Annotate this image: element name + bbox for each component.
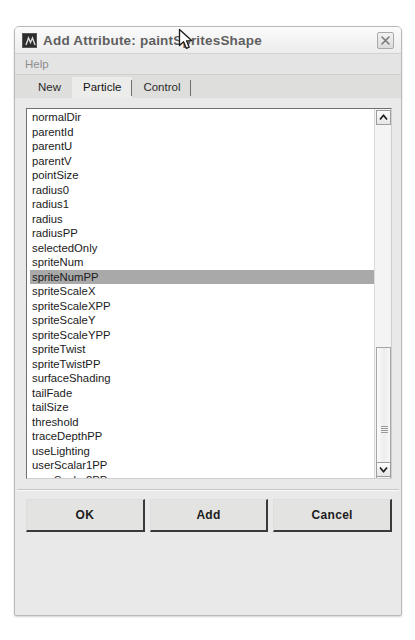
ok-button[interactable]: OK bbox=[26, 499, 145, 532]
list-item[interactable]: spriteScaleX bbox=[30, 284, 374, 299]
list-item[interactable]: userScalar2PP bbox=[30, 473, 374, 479]
screen: Add Attribute: paintSpritesShape Help Ne… bbox=[0, 0, 415, 640]
list-item[interactable]: parentU bbox=[30, 139, 374, 154]
add-attribute-dialog: Add Attribute: paintSpritesShape Help Ne… bbox=[14, 26, 402, 616]
list-item[interactable]: radius bbox=[30, 212, 374, 227]
scrollbar-grip bbox=[381, 426, 388, 434]
tab-control[interactable]: Control bbox=[132, 77, 191, 98]
list-item[interactable]: spriteScaleY bbox=[30, 313, 374, 328]
list-item[interactable]: selectedOnly bbox=[30, 241, 374, 256]
list-item[interactable]: tailSize bbox=[30, 400, 374, 415]
dialog-titlebar[interactable]: Add Attribute: paintSpritesShape bbox=[15, 27, 401, 54]
list-item[interactable]: spriteScaleYPP bbox=[30, 328, 374, 343]
tab-strip: New Particle Control bbox=[15, 75, 401, 98]
list-item[interactable]: tailFade bbox=[30, 386, 374, 401]
tab-particle[interactable]: Particle bbox=[72, 77, 132, 98]
list-item[interactable]: parentV bbox=[30, 154, 374, 169]
attribute-list[interactable]: normalDirparentIdparentUparentVpointSize… bbox=[27, 109, 374, 478]
tab-new[interactable]: New bbox=[27, 77, 72, 98]
list-item[interactable]: radius0 bbox=[30, 183, 374, 198]
list-item[interactable]: surfaceShading bbox=[30, 371, 374, 386]
scrollbar-thumb[interactable] bbox=[376, 347, 391, 479]
chevron-up-icon[interactable] bbox=[376, 110, 391, 125]
dialog-button-bar: OK Add Cancel bbox=[26, 499, 392, 532]
add-button[interactable]: Add bbox=[150, 499, 269, 532]
list-item[interactable]: parentId bbox=[30, 125, 374, 140]
divider bbox=[17, 489, 399, 491]
chevron-down-icon[interactable] bbox=[376, 462, 391, 477]
list-item[interactable]: spriteTwist bbox=[30, 342, 374, 357]
list-item[interactable]: userScalar1PP bbox=[30, 458, 374, 473]
list-item[interactable]: normalDir bbox=[30, 110, 374, 125]
list-item[interactable]: spriteNumPP bbox=[30, 270, 374, 285]
dialog-menubar: Help bbox=[15, 54, 401, 75]
list-item[interactable]: radius1 bbox=[30, 197, 374, 212]
list-item[interactable]: useLighting bbox=[30, 444, 374, 459]
list-item[interactable]: spriteNum bbox=[30, 255, 374, 270]
list-item[interactable]: traceDepthPP bbox=[30, 429, 374, 444]
list-item[interactable]: spriteTwistPP bbox=[30, 357, 374, 372]
list-item[interactable]: radiusPP bbox=[30, 226, 374, 241]
attribute-list-panel: normalDirparentIdparentUparentVpointSize… bbox=[26, 108, 392, 479]
list-item[interactable]: spriteScaleXPP bbox=[30, 299, 374, 314]
list-item[interactable]: threshold bbox=[30, 415, 374, 430]
close-icon[interactable] bbox=[377, 32, 394, 49]
menu-item-help[interactable]: Help bbox=[25, 58, 49, 70]
list-item[interactable]: pointSize bbox=[30, 168, 374, 183]
vertical-scrollbar[interactable] bbox=[374, 109, 391, 478]
dialog-title: Add Attribute: paintSpritesShape bbox=[43, 33, 262, 48]
cancel-button[interactable]: Cancel bbox=[273, 499, 392, 532]
maya-app-icon bbox=[22, 33, 37, 48]
